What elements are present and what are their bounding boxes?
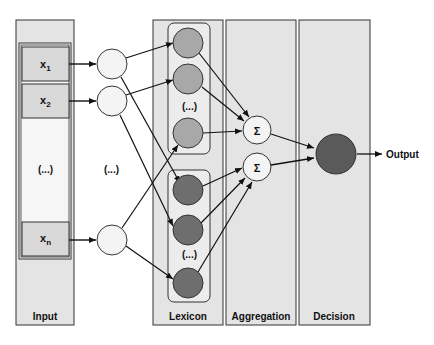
hidden-node [97,86,127,116]
lexicon-upper-ellipsis: (...) [182,101,197,112]
input-ellipsis: (...) [38,164,53,175]
lexicon-node [173,268,203,298]
input-xn: xn [22,222,69,256]
column-label-input: Input [33,311,58,322]
column-label-decision: Decision [313,311,355,322]
sum-node-2: Σ [243,153,271,181]
svg-text:Σ: Σ [254,125,261,137]
input-x1: x1 [22,47,69,81]
lexicon-lower-nodes [173,175,203,298]
lexicon-node [173,215,203,245]
lexicon-node [173,175,203,205]
sum-node-1: Σ [243,116,271,144]
hidden-node [97,49,127,79]
lexicon-upper-nodes [173,28,203,148]
decision-node [316,134,356,174]
hidden-ellipsis: (...) [104,164,119,175]
lexicon-lower-ellipsis: (...) [182,249,197,260]
neural-diagram: x1 x2 xn (...) (...) (...) (...) [0,0,434,345]
lexicon-node [173,118,203,148]
column-label-aggregation: Aggregation [232,311,291,322]
lexicon-node [173,64,203,94]
output-label: Output [386,149,419,160]
hidden-node [97,225,127,255]
svg-text:Σ: Σ [254,162,261,174]
lexicon-node [173,28,203,58]
input-x2: x2 [22,84,69,118]
column-label-lexicon: Lexicon [169,311,207,322]
